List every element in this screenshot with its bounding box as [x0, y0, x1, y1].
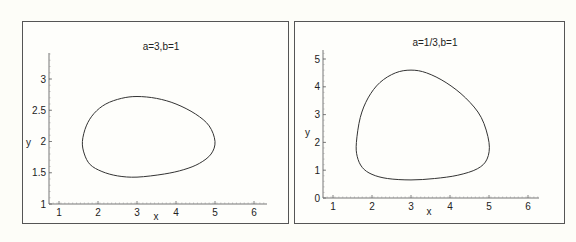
- y-tick-label: 3: [40, 74, 46, 85]
- chart-panel-right: 123456012345a=1/3,b=1xy: [294, 21, 565, 224]
- x-axis-label: x: [154, 211, 159, 222]
- x-tick-label: 5: [212, 207, 218, 218]
- y-tick-label: 3: [314, 109, 320, 120]
- y-tick-label: 2.5: [32, 105, 46, 116]
- chart-title: a=3,b=1: [143, 41, 180, 52]
- chart-left: 12345611.522.53a=3,b=1xy: [23, 22, 290, 225]
- chart-right: 123456012345a=1/3,b=1xy: [295, 22, 566, 225]
- x-axis-label: x: [427, 206, 432, 217]
- x-tick-label: 6: [525, 201, 531, 212]
- y-tick-label: 1: [40, 199, 46, 210]
- x-tick-label: 3: [408, 201, 414, 212]
- x-tick-label: 3: [134, 207, 140, 218]
- y-tick-label: 0: [314, 193, 320, 204]
- orbit-curve: [82, 97, 215, 178]
- y-axis-label: y: [26, 137, 31, 148]
- x-tick-label: 5: [486, 201, 492, 212]
- x-tick-label: 2: [369, 201, 375, 212]
- chart-panel-left: 12345611.522.53a=3,b=1xy: [22, 21, 289, 224]
- x-tick-label: 1: [330, 201, 336, 212]
- orbit-curve: [356, 70, 489, 180]
- chart-title: a=1/3,b=1: [412, 37, 457, 48]
- x-tick-label: 2: [95, 207, 101, 218]
- y-tick-label: 1.5: [32, 167, 46, 178]
- y-tick-label: 4: [314, 81, 320, 92]
- y-tick-label: 2: [314, 137, 320, 148]
- x-tick-label: 6: [251, 207, 257, 218]
- x-tick-label: 4: [447, 201, 453, 212]
- x-tick-label: 1: [56, 207, 62, 218]
- y-tick-label: 2: [40, 136, 46, 147]
- y-tick-label: 5: [314, 54, 320, 65]
- x-tick-label: 4: [173, 207, 179, 218]
- y-tick-label: 1: [314, 165, 320, 176]
- y-axis-label: y: [305, 127, 310, 138]
